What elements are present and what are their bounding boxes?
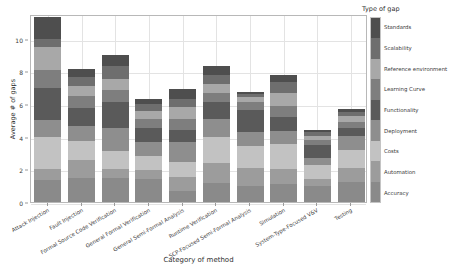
- bar-segment: [270, 106, 297, 117]
- legend-swatch: [371, 141, 380, 161]
- bar-segment: [169, 191, 196, 202]
- bar-segment: [68, 77, 95, 86]
- bar-stack: [68, 69, 95, 202]
- legend-swatch: [371, 161, 380, 181]
- bar-segment: [68, 86, 95, 96]
- legend-label: Deployment: [384, 128, 417, 134]
- bar-segment: [135, 170, 162, 179]
- legend-label: Costs: [384, 148, 399, 154]
- x-axis: Attack InjectionFault InjectionFormal So…: [30, 203, 367, 263]
- x-axis-title: Category of method: [30, 256, 367, 264]
- bar-segment: [203, 102, 230, 120]
- y-axis-tick-mark: [25, 72, 28, 73]
- bar-segment: [102, 151, 129, 168]
- bar-segment: [102, 90, 129, 102]
- x-axis-tick-mark: [148, 203, 149, 206]
- chart-figure: 0246810 Average # of gaps Attack Injecti…: [0, 0, 453, 277]
- bar-segment: [169, 119, 196, 130]
- legend-swatch: [371, 182, 380, 202]
- bar-stack: [102, 55, 129, 202]
- bar-segment: [338, 128, 365, 136]
- y-axis-tick-mark: [25, 203, 28, 204]
- bar-segment: [34, 120, 61, 136]
- bar-segment: [169, 99, 196, 107]
- legend-title: Type of gap: [362, 5, 400, 13]
- y-axis-tick-mark: [25, 104, 28, 105]
- bar-segment: [270, 144, 297, 169]
- bar-segment: [203, 84, 230, 92]
- bar-segment: [169, 130, 196, 141]
- bar-segment: [237, 186, 264, 202]
- bar-segment: [203, 137, 230, 163]
- bar-segment: [68, 69, 95, 77]
- bar-stack: [135, 99, 162, 202]
- bar-segment: [203, 163, 230, 183]
- bar-segment: [203, 75, 230, 85]
- x-axis-tick-mark: [283, 203, 284, 206]
- legend-swatch: [371, 18, 380, 38]
- legend-swatch: [371, 120, 380, 140]
- legend-label: Standards: [384, 24, 411, 30]
- bar-segment: [169, 89, 196, 99]
- bar-segment: [34, 70, 61, 88]
- bar-segment: [135, 128, 162, 142]
- bar-segment: [203, 93, 230, 102]
- y-axis-tick-mark: [25, 170, 28, 171]
- bar-segment: [338, 182, 365, 202]
- x-axis-tick-mark: [249, 203, 250, 206]
- y-axis-tick-label: 8: [19, 69, 23, 76]
- bar-segment: [270, 117, 297, 131]
- bar-segment: [102, 55, 129, 66]
- bar-segment: [338, 150, 365, 168]
- legend-swatch: [371, 79, 380, 99]
- x-axis-tick-mark: [215, 203, 216, 206]
- bar-segment: [135, 119, 162, 127]
- bar-stack: [270, 75, 297, 202]
- bar-segment: [237, 168, 264, 187]
- bar-segment: [34, 137, 61, 170]
- bar-segment: [203, 119, 230, 136]
- y-axis-tick-mark: [25, 39, 28, 40]
- bar-segment: [68, 96, 95, 108]
- bar-segment: [68, 126, 95, 141]
- bar-segment: [304, 186, 331, 202]
- x-axis-tick-mark: [47, 203, 48, 206]
- bar-stack: [203, 66, 230, 202]
- bar-segment: [304, 158, 331, 165]
- bar-segment: [102, 102, 129, 127]
- x-axis-tick-mark: [81, 203, 82, 206]
- bar-segment: [203, 66, 230, 74]
- bar-segment: [68, 141, 95, 161]
- bar-segment: [135, 156, 162, 170]
- legend-swatch: [371, 59, 380, 79]
- bar-segment: [304, 179, 331, 186]
- bar-segment: [237, 132, 264, 147]
- y-axis-tick-label: 10: [15, 36, 23, 43]
- y-axis-tick-label: 4: [19, 134, 23, 141]
- legend-label: Accuracy: [384, 190, 409, 196]
- bar-segment: [102, 79, 129, 90]
- bar-segment: [135, 111, 162, 120]
- bar-segment: [34, 180, 61, 202]
- y-axis-tick-label: 2: [19, 167, 23, 174]
- bar-segment: [304, 145, 331, 158]
- legend-swatch: [371, 100, 380, 120]
- bar-stack: [34, 17, 61, 202]
- legend-label: Learning Curve: [384, 86, 425, 92]
- y-axis-tick-label: 6: [19, 101, 23, 108]
- bar-stack: [169, 89, 196, 202]
- x-axis-tick-mark: [350, 203, 351, 206]
- bar-stack: [237, 92, 264, 202]
- bar-segment: [34, 47, 61, 70]
- legend-label: Automation: [384, 169, 415, 175]
- bar-segment: [102, 169, 129, 179]
- legend-swatch: [371, 38, 380, 58]
- bar-segment: [237, 102, 264, 110]
- bar-segment: [169, 162, 196, 178]
- bar-segment: [338, 168, 365, 183]
- bar-segment: [270, 93, 297, 107]
- bar-segment: [135, 142, 162, 157]
- bar-stack: [338, 109, 365, 202]
- bar-segment: [34, 88, 61, 121]
- y-axis-tick-label: 0: [19, 200, 23, 207]
